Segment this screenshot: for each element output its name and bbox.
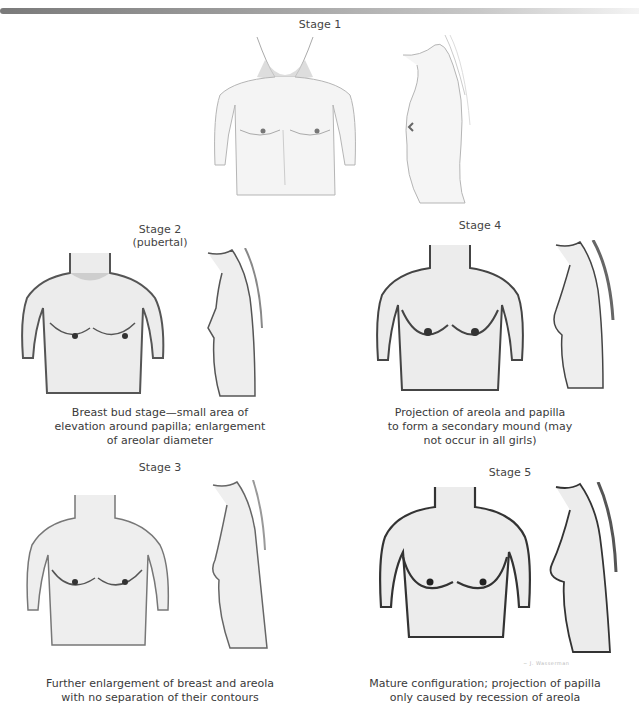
artist-signature: ~ J. Wasserman: [523, 660, 569, 666]
stage-4-side-profile-illustration: [548, 240, 623, 390]
stage-1-title: Stage 1: [270, 18, 370, 31]
stage-5-title: Stage 5: [460, 466, 560, 479]
stage-2-front-torso-illustration: [15, 248, 165, 398]
stage-2-title: Stage 2 (pubertal): [100, 223, 220, 249]
stage-4-title: Stage 4: [430, 219, 530, 232]
caption-line: of areolar diameter: [20, 434, 300, 448]
stage-3-title: Stage 3: [110, 461, 210, 474]
stage-3-side-profile-illustration: [205, 480, 280, 650]
caption-line: Mature configuration; projection of papi…: [340, 677, 630, 691]
caption-line: Breast bud stage—small area of: [20, 406, 300, 420]
stage-5-side-profile-illustration: [548, 482, 628, 657]
stage-5-front-torso-illustration: [375, 482, 535, 642]
stage-2-title-text: Stage 2: [100, 223, 220, 236]
caption-line: Projection of areola and papilla: [360, 406, 600, 420]
stage-3-caption: Further enlargement of breast and areola…: [20, 677, 300, 705]
stage-4-front-torso-illustration: [370, 240, 530, 395]
caption-line: with no separation of their contours: [20, 691, 300, 705]
stage-3-front-torso-illustration: [20, 490, 170, 650]
caption-line: only caused by recession of areola: [340, 691, 630, 705]
stage-5-caption: Mature configuration; projection of papi…: [340, 677, 630, 705]
caption-line: not occur in all girls): [360, 434, 600, 448]
stage-1-side-profile-illustration: [395, 35, 475, 205]
caption-line: to form a secondary mound (may: [360, 420, 600, 434]
stage-2-side-profile-illustration: [200, 248, 275, 398]
stage-1-front-torso-illustration: [205, 35, 365, 200]
stage-2-caption: Breast bud stage—small area of elevation…: [20, 406, 300, 448]
caption-line: Further enlargement of breast and areola: [20, 677, 300, 691]
stage-4-caption: Projection of areola and papilla to form…: [360, 406, 600, 448]
caption-line: elevation around papilla; enlargement: [20, 420, 300, 434]
header-rule: [0, 8, 639, 14]
